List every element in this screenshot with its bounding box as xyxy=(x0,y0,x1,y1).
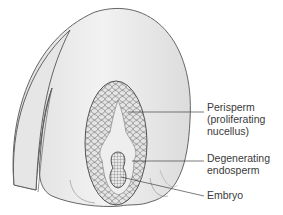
embryo-label-line1: Embryo xyxy=(207,189,243,201)
perisperm-label-line2: (proliferating xyxy=(207,113,265,125)
perisperm-label-line1: Perisperm xyxy=(207,101,265,113)
ovule-diagram: Perisperm (proliferating nucellus) Degen… xyxy=(0,0,283,215)
endosperm-label-line2: endosperm xyxy=(207,164,270,176)
embryo-label: Embryo xyxy=(207,189,243,201)
embryo-shape xyxy=(110,152,126,188)
perisperm-label: Perisperm (proliferating nucellus) xyxy=(207,101,265,137)
perisperm-label-line3: nucellus) xyxy=(207,125,265,137)
endosperm-label-line1: Degenerating xyxy=(207,152,270,164)
endosperm-label: Degenerating endosperm xyxy=(207,152,270,176)
